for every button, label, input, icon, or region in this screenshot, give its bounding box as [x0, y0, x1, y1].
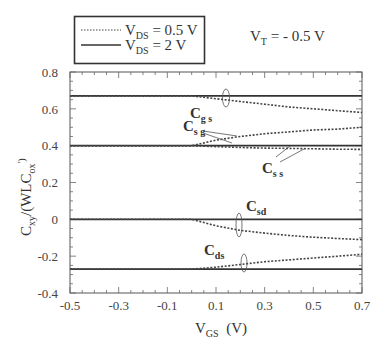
x-tick-label: -0.3: [108, 298, 129, 313]
csd-ellipse-marker: [236, 213, 242, 237]
y-tick-label: 0.4: [42, 138, 59, 153]
cds-label: Cds: [204, 242, 224, 261]
x-tick-label: -0.1: [157, 298, 178, 313]
series-line: [70, 219, 362, 239]
legend-label-vds-2: VDS = 2 V: [125, 37, 187, 56]
x-tick-label: 0.3: [257, 298, 273, 313]
y-tick-labels: 0.8 0.6 0.4 0.2 0 -0.2 -0.4: [37, 65, 58, 301]
chart: VDS = 0.5 V VDS = 2 V VT = - 0.5 V 0.8 0…: [0, 0, 387, 349]
x-tick-labels: -0.5 -0.3 -0.1 0.1 0.3 0.5 0.7: [60, 298, 371, 313]
series-line: [70, 127, 362, 145]
cgs-ellipse-marker: [223, 89, 230, 107]
x-axis-label: VGS (V): [195, 320, 247, 339]
css-label: Cs s: [262, 160, 283, 179]
y-tick-label: 0.8: [42, 65, 58, 80]
csg-pointer-line: [203, 131, 237, 136]
legend: VDS = 0.5 V VDS = 2 V: [75, 17, 205, 64]
y-tick-label: -0.4: [37, 286, 58, 301]
series-lines: [70, 96, 362, 269]
y-tick-label: 0.6: [42, 102, 59, 117]
csd-label: Csd: [246, 198, 267, 217]
x-tick-label: -0.5: [60, 298, 81, 313]
y-tick-label: 0.2: [42, 175, 58, 190]
y-tick-label: -0.2: [37, 249, 58, 264]
x-tick-label: 0.7: [354, 298, 371, 313]
series-line: [70, 96, 362, 113]
y-axis-label: Cxy/(WLCox'): [16, 158, 37, 236]
x-tick-label: 0.5: [305, 298, 321, 313]
annotation-markers: [203, 89, 304, 272]
vt-annotation: VT = - 0.5 V: [250, 28, 325, 47]
y-tick-label: 0: [52, 212, 59, 227]
x-tick-label: 0.1: [208, 298, 224, 313]
